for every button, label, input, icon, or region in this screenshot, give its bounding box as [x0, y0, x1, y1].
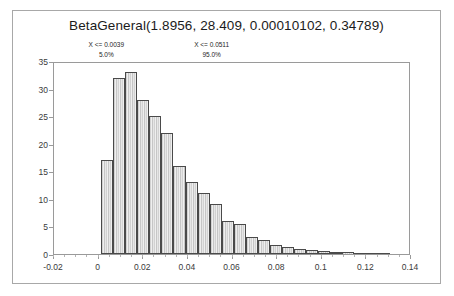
- x-axis-minor-tick: [98, 255, 99, 257]
- x-axis-minor-tick: [209, 255, 210, 257]
- histogram-bar: [246, 237, 258, 254]
- y-axis-tick-label: 25: [22, 112, 48, 122]
- histogram-bar: [222, 221, 234, 254]
- histogram-bar: [294, 249, 306, 254]
- x-axis-minor-tick: [53, 255, 54, 257]
- histogram-bar: [161, 133, 173, 254]
- chart-root: BetaGeneral(1.8956, 28.409, 0.00010102, …: [0, 0, 454, 296]
- x-axis-tick-mark: [410, 255, 411, 259]
- histogram-bar: [137, 100, 149, 254]
- x-axis-minor-tick: [298, 255, 299, 257]
- x-axis-minor-tick: [365, 255, 366, 257]
- x-axis-tick-label: 0.02: [119, 262, 165, 272]
- x-axis-minor-tick: [187, 255, 188, 257]
- x-axis-minor-tick: [377, 255, 378, 257]
- x-axis-minor-tick: [343, 255, 344, 257]
- histogram-bar: [378, 253, 390, 254]
- y-axis-tick-label: 10: [22, 195, 48, 205]
- histogram-bar: [342, 252, 354, 254]
- histogram-bars: [54, 63, 409, 254]
- x-axis-minor-tick: [287, 255, 288, 257]
- y-axis-tick-mark: [49, 117, 53, 118]
- x-axis-tick-label: -0.02: [30, 262, 76, 272]
- y-axis-tick-mark: [49, 172, 53, 173]
- histogram-bar: [210, 204, 222, 254]
- y-axis-tick-label: 30: [22, 85, 48, 95]
- histogram-bar: [366, 253, 378, 254]
- x-axis-minor-tick: [388, 255, 389, 257]
- y-axis-tick-label: 20: [22, 140, 48, 150]
- histogram-bar: [282, 247, 294, 254]
- percentile-annotation: X <= 0.051195.0%: [194, 40, 229, 60]
- x-axis-minor-tick: [332, 255, 333, 257]
- y-axis-tick-mark: [49, 227, 53, 228]
- x-axis-minor-tick: [276, 255, 277, 257]
- y-axis-tick-label: 0: [22, 250, 48, 260]
- histogram-bar: [173, 166, 185, 254]
- y-axis-tick-label: 15: [22, 167, 48, 177]
- histogram-bar: [354, 253, 366, 254]
- x-axis-minor-tick: [153, 255, 154, 257]
- x-axis-minor-tick: [109, 255, 110, 257]
- x-axis-minor-tick: [142, 255, 143, 257]
- histogram-bar: [149, 116, 161, 254]
- histogram-bar: [258, 240, 270, 254]
- x-axis-minor-tick: [321, 255, 322, 257]
- percentile-pct-label: 5.0%: [89, 50, 124, 60]
- x-axis-minor-tick: [310, 255, 311, 257]
- x-axis-tick-label: 0.06: [209, 262, 255, 272]
- percentile-x-label: X <= 0.0511: [194, 41, 229, 48]
- percentile-pct-label: 95.0%: [194, 50, 229, 60]
- histogram-bar: [270, 245, 282, 254]
- x-axis-minor-tick: [86, 255, 87, 257]
- y-axis-tick-mark: [49, 145, 53, 146]
- percentile-annotation: X <= 0.00395.0%: [89, 40, 124, 60]
- x-axis-tick-label: 0.14: [387, 262, 433, 272]
- x-axis-minor-tick: [176, 255, 177, 257]
- x-axis-minor-tick: [265, 255, 266, 257]
- y-axis-tick-label: 5: [22, 222, 48, 232]
- y-axis-tick-mark: [49, 90, 53, 91]
- x-axis-tick-label: 0.12: [342, 262, 388, 272]
- y-axis-tick-mark: [49, 200, 53, 201]
- x-axis-minor-tick: [131, 255, 132, 257]
- histogram-bar: [198, 193, 210, 254]
- x-axis-minor-tick: [120, 255, 121, 257]
- histogram-bar: [125, 72, 137, 254]
- histogram-bar: [318, 251, 330, 254]
- x-axis-minor-tick: [64, 255, 65, 257]
- x-axis-minor-tick: [165, 255, 166, 257]
- x-axis-tick-label: 0.1: [298, 262, 344, 272]
- x-axis-minor-tick: [198, 255, 199, 257]
- x-axis-tick-label: 0: [75, 262, 121, 272]
- x-axis-minor-tick: [75, 255, 76, 257]
- histogram-bar: [234, 224, 246, 254]
- x-axis-minor-tick: [220, 255, 221, 257]
- histogram-bar: [306, 250, 318, 254]
- percentile-x-label: X <= 0.0039: [89, 41, 124, 48]
- x-axis-minor-tick: [243, 255, 244, 257]
- x-axis-minor-tick: [399, 255, 400, 257]
- histogram-bar: [113, 78, 125, 254]
- y-axis-tick-mark: [49, 62, 53, 63]
- histogram-bar: [101, 160, 113, 254]
- x-axis-minor-tick: [354, 255, 355, 257]
- y-axis-tick-label: 35: [22, 57, 48, 67]
- histogram-bar: [186, 182, 198, 254]
- histogram-bar: [330, 252, 342, 254]
- chart-title: BetaGeneral(1.8956, 28.409, 0.00010102, …: [12, 18, 441, 33]
- x-axis-tick-label: 0.08: [253, 262, 299, 272]
- x-axis-minor-tick: [232, 255, 233, 257]
- x-axis-minor-tick: [254, 255, 255, 257]
- x-axis-tick-label: 0.04: [164, 262, 210, 272]
